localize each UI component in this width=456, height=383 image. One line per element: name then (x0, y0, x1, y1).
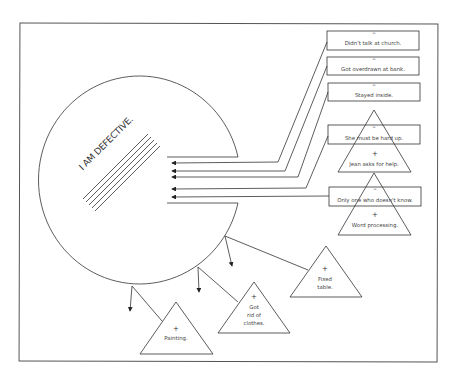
core-belief-circle (39, 76, 238, 284)
link-fixed (225, 236, 308, 270)
negative-sign: – (372, 124, 376, 131)
evidence-label: Painting. (164, 335, 187, 341)
evidence-label: Jean asks for help. (349, 161, 399, 167)
link-painting (132, 286, 162, 321)
positive-sign: + (372, 151, 378, 158)
evidence-label: Stayed inside. (355, 92, 393, 98)
deflect-arrow-painting (130, 286, 132, 311)
evidence-label: Got overdrawn at bank. (341, 66, 405, 72)
deflect-arrow-fixed (225, 236, 232, 266)
evidence-label: Got (249, 304, 259, 310)
link-got-rid (198, 267, 238, 302)
negative-sign: – (372, 30, 376, 37)
evidence-label: Only one who doesn't know. (337, 197, 413, 203)
diagram-canvas (0, 0, 456, 383)
arrow-in-5 (172, 196, 329, 197)
arrow-in-2 (172, 66, 327, 171)
evidence-label: She must be hard up. (345, 135, 403, 141)
evidence-label: Didn't talk at church. (345, 40, 402, 46)
deflect-arrow-got-rid (198, 267, 199, 292)
evidence-label: table. (317, 284, 332, 290)
positive-sign: + (372, 212, 378, 219)
negative-sign: – (372, 56, 376, 63)
negative-sign: – (372, 82, 376, 89)
positive-sign: + (322, 266, 328, 273)
positive-sign: + (173, 326, 179, 333)
evidence-label: Word processing. (352, 222, 398, 228)
negative-sign: – (373, 186, 377, 193)
positive-sign: + (251, 294, 257, 301)
evidence-label: Fixed (318, 276, 332, 282)
arrow-in-3 (172, 92, 328, 177)
arrow-in-1 (172, 42, 327, 163)
evidence-label: rid of (247, 312, 261, 318)
evidence-label: clothes. (243, 320, 264, 326)
